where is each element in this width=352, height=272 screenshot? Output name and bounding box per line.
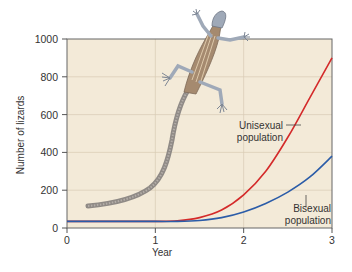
y-tick-label: 1000 [35,33,59,45]
bisexual-label-line1: Bisexual [293,203,331,214]
y-axis-title: Number of lizards [15,96,26,174]
x-axis-title: Year [152,247,173,258]
chart: Unisexual population Bisexual population… [0,0,352,272]
unisexual-label-line1: Unisexual [239,120,283,131]
x-tick-label: 2 [241,234,247,246]
y-tick-label: 600 [40,109,58,121]
unisexual-label-line2: population [237,132,283,143]
y-axis: 02004006008001000 [35,33,67,234]
y-tick-label: 0 [52,222,58,234]
y-tick-label: 800 [40,71,58,83]
x-axis: 0123 [64,228,335,246]
y-tick-label: 400 [40,146,58,158]
x-tick-label: 3 [329,234,335,246]
x-tick-label: 1 [152,234,158,246]
bisexual-label-line2: population [285,215,331,226]
x-tick-label: 0 [64,234,70,246]
y-tick-label: 200 [40,184,58,196]
